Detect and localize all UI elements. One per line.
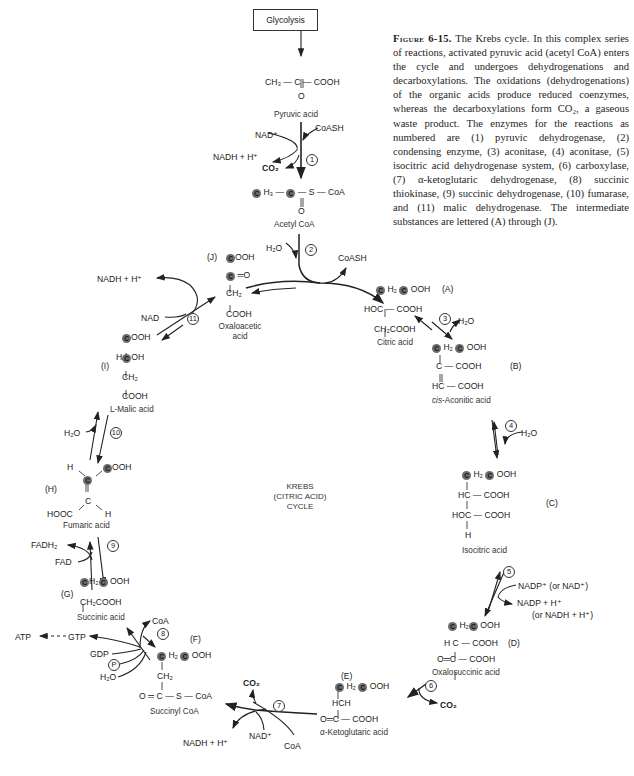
arrow-step-11 xyxy=(157,297,215,335)
intermediate-h-h2: H xyxy=(105,509,111,519)
intermediate-d-line-1: C H₂C OOH xyxy=(448,620,500,631)
intermediate-i-line-3: CH₂ xyxy=(122,372,138,382)
enzyme-10: 10 xyxy=(110,427,122,439)
intermediate-d-line-3: O═C — COOH xyxy=(437,654,495,664)
nad-plus: NAD⁺ xyxy=(255,130,278,140)
arrow-h2o-4 xyxy=(505,432,522,444)
intermediate-g-line-2: CH₂COOH xyxy=(80,597,122,607)
enzyme-6: 6 xyxy=(425,680,437,692)
intermediate-e-line-1: C H₂ C OOH xyxy=(335,681,389,692)
arrow-step-10-back xyxy=(90,412,98,460)
arrow-step-7 xyxy=(226,704,317,714)
intermediate-e-letter: (E) xyxy=(341,671,352,681)
intermediate-j-line-2: C ═O xyxy=(226,270,250,281)
arrow-nadh-11 xyxy=(157,278,198,316)
intermediate-c-line-3: HOC — COOH xyxy=(452,510,510,520)
fadh2: FADH₂ xyxy=(31,540,57,550)
intermediate-d-letter: (D) xyxy=(508,638,520,648)
phosphate-p: P xyxy=(108,659,120,671)
acetyl-formula: C H₃ — C — S — CoA xyxy=(252,187,345,198)
intermediate-h-hooc: HOOC xyxy=(47,509,73,519)
pyruvic-o: O xyxy=(298,91,305,101)
intermediate-a-line-1: C H₂ C OOH xyxy=(376,284,430,295)
intermediate-a-letter: (A) xyxy=(442,284,453,294)
arrow-gdp xyxy=(112,649,141,654)
intermediate-i-line-4: COOH xyxy=(122,391,148,401)
enzyme-4: 4 xyxy=(505,420,517,432)
oxalosuccinic-acid-name: Oxalosuccinic acid xyxy=(432,668,500,678)
intermediate-h-line-1: COOH xyxy=(103,462,132,473)
malic-acid-name: L-Malic acid xyxy=(110,405,154,415)
nadh-step-11: NADH + H⁺ xyxy=(97,274,142,284)
arrow-step-6 xyxy=(408,684,426,697)
nad-step-11: NAD xyxy=(141,313,159,323)
enzyme-9: 9 xyxy=(107,540,119,552)
intermediate-c-line-4: H xyxy=(465,530,471,540)
h2o-step-4: H₂O xyxy=(521,428,537,438)
intermediate-f-letter: (F) xyxy=(190,634,201,644)
nad-step-7: NAD⁺ xyxy=(249,731,272,741)
glycolysis-box: Glycolysis xyxy=(253,9,318,31)
arrow-coash-2 xyxy=(325,268,346,283)
h2o-step-2: H₂O xyxy=(266,243,282,253)
nadh-alt: (or NADH + H⁺) xyxy=(532,610,593,620)
fad: FAD xyxy=(55,557,72,567)
intermediate-c-letter: (C) xyxy=(546,498,558,508)
pyruvic-name: Pyruvic acid xyxy=(274,110,318,120)
intermediate-e-line-2: HCH xyxy=(332,698,351,708)
h2o-step-3: H₂O xyxy=(458,316,474,326)
enzyme-11: 11 xyxy=(187,313,199,325)
arrow-gtp xyxy=(90,636,140,647)
intermediate-b-line-1: C H₂ C OOH xyxy=(432,342,486,353)
intermediate-f-line-2: CH₂ xyxy=(157,671,173,681)
oxaloacetic-acid-name: Oxaloacetic acid xyxy=(215,322,265,342)
arrow-step-11-back xyxy=(162,325,183,340)
co2-step-7: CO₂ xyxy=(243,678,260,688)
arrow-h2o-8 xyxy=(118,652,146,677)
nadh-step-7: NADH + H⁺ xyxy=(183,738,228,748)
arrow-step-10-fwd xyxy=(98,415,108,463)
arrow-nad-11 xyxy=(165,314,186,317)
intermediate-b-line-3: HC — COOH xyxy=(432,381,484,391)
intermediate-j-line-1: COOH xyxy=(226,252,255,263)
intermediate-g-letter: (G) xyxy=(61,589,73,599)
intermediate-j-letter: (J) xyxy=(207,252,217,262)
intermediate-b-line-2: C — COOH xyxy=(436,361,481,371)
coash: CoASH xyxy=(315,123,344,133)
arrow-coa-8 xyxy=(140,621,150,648)
fumaric-acid-name: Fumaric acid xyxy=(63,521,110,531)
succinic-acid-name: Succinic acid xyxy=(77,613,125,623)
intermediate-j-line-4: COOH xyxy=(226,309,252,319)
arrow-nadp xyxy=(498,585,516,604)
arrow-nad-7 xyxy=(256,712,264,730)
intermediate-h-h1: H xyxy=(67,462,73,472)
intermediate-g-line-1: CH₂C OOH xyxy=(80,576,130,587)
coa-step-7: CoA xyxy=(284,741,301,751)
h2o-step-10: H₂O xyxy=(64,428,80,438)
intermediate-c-line-1: C H₂ C OOH xyxy=(462,469,516,480)
nadp-h: NADP + H⁺ xyxy=(517,598,562,608)
gdp: GDP xyxy=(90,649,109,659)
intermediate-i-line-1: COOH xyxy=(122,332,151,343)
enzyme-7: 7 xyxy=(273,700,285,712)
coa-step-8: CoA xyxy=(152,616,169,626)
aconitic-acid-name: cis-Aconitic acid xyxy=(432,396,491,406)
enzyme-8: 8 xyxy=(157,628,169,640)
arrow-fad xyxy=(78,552,92,562)
intermediate-h-c1: C xyxy=(83,474,92,485)
coash-step-2: CoASH xyxy=(338,253,367,263)
intermediate-a-line-3: CH₂COOH xyxy=(374,324,416,334)
intermediate-f-line-3: O ═ C — S — CoA xyxy=(139,691,212,701)
pyruvic-formula: CH₃ — C — COOH xyxy=(265,77,340,87)
arrow-step-8-fwd xyxy=(143,636,155,647)
arrow-oaa-out xyxy=(246,281,320,288)
enzyme-1: 1 xyxy=(306,154,318,166)
acetyl-name: Acetyl CoA xyxy=(274,220,315,230)
ketoglutaric-acid-name: α-Ketoglutaric acid xyxy=(320,728,388,738)
enzyme-3: 3 xyxy=(439,313,451,325)
enzyme-2: 2 xyxy=(305,244,317,256)
intermediate-a-line-2: HOC — COOH xyxy=(364,304,422,314)
intermediate-e-line-3: O═C — COOH xyxy=(320,714,378,724)
isocitric-acid-name: Isocitric acid xyxy=(462,546,507,556)
succinyl-coa-name: Succinyl CoA xyxy=(150,707,199,717)
